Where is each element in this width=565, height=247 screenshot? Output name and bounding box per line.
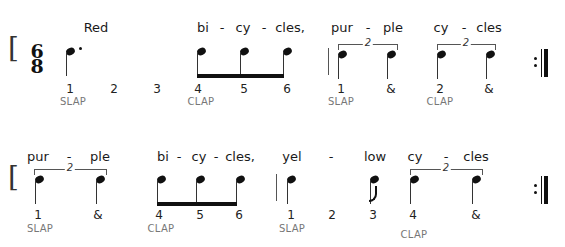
beat-count: 1: [34, 208, 42, 222]
note-stem: [338, 55, 339, 79]
lyric-hyphen: -: [220, 20, 225, 35]
note-stem: [287, 180, 288, 204]
note-stem: [66, 52, 67, 76]
action-label: CLAP: [427, 96, 454, 107]
lyric-syllable: cy: [408, 149, 423, 164]
note-stem: [240, 52, 241, 76]
lyric-syllable: ple: [90, 149, 110, 164]
beat-count: 5: [196, 208, 204, 222]
note-flag: [369, 186, 377, 202]
action-label: SLAP: [60, 96, 86, 107]
note-stem: [283, 52, 284, 76]
repeat-dot: [534, 64, 537, 67]
note-stem: [437, 55, 438, 79]
lyric-syllable: pur: [331, 20, 353, 35]
lyric-hyphen: -: [214, 149, 219, 164]
time-signature: 6 8: [30, 44, 44, 74]
lyric-syllable: ple: [383, 20, 403, 35]
lyric-syllable: bi: [157, 149, 169, 164]
tuplet-bracket: 2: [338, 44, 398, 50]
time-signature-bottom: 8: [30, 59, 44, 74]
beam: [157, 202, 237, 206]
lyric-syllable: cy: [236, 20, 251, 35]
barline: [328, 48, 329, 75]
beat-count: 6: [235, 208, 243, 222]
beat-count: 1: [66, 82, 74, 96]
lyric-syllable: cy: [192, 149, 207, 164]
lyric-syllable: pur: [27, 149, 49, 164]
system-bracket: [: [8, 160, 19, 193]
beat-count: 1: [287, 208, 295, 222]
thin-barline: [541, 176, 542, 204]
action-label: CLAP: [401, 229, 428, 240]
beat-count: 4: [409, 208, 417, 222]
action-label: CLAP: [188, 96, 215, 107]
lyric-hyphen: -: [329, 149, 334, 164]
beam: [197, 74, 284, 78]
note-stem: [197, 52, 198, 76]
barline: [276, 174, 277, 201]
beat-count: 2: [328, 208, 336, 222]
thin-barline: [541, 49, 542, 77]
note-stem: [236, 180, 237, 204]
action-label: SLAP: [328, 96, 354, 107]
beat-count: &: [471, 208, 480, 222]
tuplet-bracket: 2: [410, 169, 483, 175]
beat-count: &: [484, 82, 493, 96]
system-bracket: [: [8, 31, 19, 64]
repeat-dot: [534, 57, 537, 60]
beat-count: &: [386, 82, 395, 96]
note-stem: [196, 180, 197, 204]
tuplet-bracket: 2: [437, 44, 496, 50]
beat-count: 3: [369, 208, 377, 222]
note-stem: [157, 180, 158, 204]
lyric-syllable: cy: [434, 20, 449, 35]
lyric-syllable: low: [364, 149, 386, 164]
lyric-hyphen: -: [262, 20, 267, 35]
augmentation-dot: [79, 47, 82, 50]
beat-count: 1: [337, 82, 345, 96]
repeat-dot: [534, 184, 537, 187]
note-stem: [387, 55, 388, 79]
tuplet-number: 2: [441, 162, 451, 173]
tuplet-bracket: 2: [34, 169, 107, 175]
note-stem: [486, 55, 487, 79]
note-stem: [472, 180, 473, 204]
note-stem: [96, 180, 97, 204]
action-label: SLAP: [279, 223, 305, 234]
lyric-syllable: cles: [476, 20, 502, 35]
lyric-hyphen: -: [177, 149, 182, 164]
lyric-syllable: yel: [282, 149, 301, 164]
note-stem: [410, 180, 411, 204]
beat-count: 4: [155, 208, 163, 222]
beat-count: 4: [194, 82, 202, 96]
lyric-hyphen: -: [366, 20, 371, 35]
action-label: CLAP: [148, 223, 175, 234]
lyric-hyphen: -: [462, 20, 467, 35]
note-stem: [35, 180, 36, 204]
repeat-dot: [534, 191, 537, 194]
tuplet-number: 2: [363, 37, 373, 48]
lyric-syllable: cles: [463, 149, 489, 164]
beat-count: &: [93, 208, 102, 222]
lyric-syllable: cles,: [275, 20, 305, 35]
beat-count: 6: [283, 82, 291, 96]
lyric-syllable: cles,: [225, 149, 255, 164]
beat-count: 2: [110, 82, 118, 96]
beat-count: 5: [240, 82, 248, 96]
beat-count: 2: [436, 82, 444, 96]
lyric-syllable: bi: [197, 20, 209, 35]
tuplet-number: 2: [65, 162, 75, 173]
lyric-syllable: Red: [84, 20, 109, 35]
thick-barline: [544, 49, 548, 77]
thick-barline: [544, 176, 548, 204]
tuplet-number: 2: [461, 37, 471, 48]
beat-count: 3: [153, 82, 161, 96]
action-label: SLAP: [27, 223, 53, 234]
